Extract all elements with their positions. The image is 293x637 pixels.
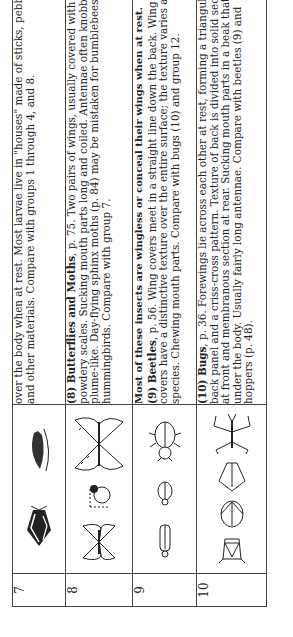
long-beetle-icon bbox=[155, 523, 175, 559]
illustration-cell bbox=[197, 405, 267, 574]
ground-beetle-icon bbox=[148, 419, 182, 463]
moth-icon bbox=[77, 520, 121, 564]
table-row: 9 Most of these insects are wingle bbox=[133, 0, 197, 607]
description-paragraph: (8) Butterflies and Moths, p. 75. Two pa… bbox=[66, 0, 112, 404]
illustration-cell bbox=[66, 405, 133, 574]
small-beetle-icon bbox=[154, 480, 176, 506]
caterpillar-icon bbox=[84, 481, 114, 513]
water-strider-icon bbox=[212, 413, 252, 457]
butterfly-icon bbox=[71, 414, 127, 474]
caddisfly-larva-icon bbox=[24, 428, 54, 474]
group-description: Most of these insects are wingless or co… bbox=[133, 0, 197, 405]
water-bug-icon bbox=[215, 460, 249, 496]
table-row: 8 (8) Butter bbox=[66, 0, 133, 607]
leaf-bug-icon bbox=[217, 499, 247, 533]
description-paragraph: (9) Beetles, p. 56. Wing covers meet in … bbox=[147, 0, 182, 404]
group-description: (8) Butterflies and Moths, p. 75. Two pa… bbox=[66, 0, 133, 405]
group-number: 8 bbox=[66, 574, 133, 607]
group-number: 7 bbox=[13, 574, 66, 607]
table-row: 10 (10) Bugs, p. 36. Forewi bbox=[197, 0, 267, 607]
group-description: over the body when at rest. Most larvae … bbox=[13, 0, 66, 405]
group-number: 9 bbox=[133, 574, 197, 607]
insect-key-table: 7 over the body when at rest. Most larva… bbox=[12, 0, 267, 607]
caddisfly-icon bbox=[21, 507, 57, 551]
illustration-cell bbox=[133, 405, 197, 574]
rotated-page: 7 over the body when at rest. Most larva… bbox=[12, 0, 266, 607]
description-paragraph: (10) Bugs, p. 36. Forewings lie across e… bbox=[197, 0, 255, 404]
illustration-cell bbox=[13, 405, 66, 574]
group-description: (10) Bugs, p. 36. Forewings lie across e… bbox=[197, 0, 267, 405]
table-row: 7 over the body when at rest. Most larva… bbox=[13, 0, 66, 607]
group-number: 10 bbox=[197, 574, 267, 607]
description-paragraph: over the body when at rest. Most larvae … bbox=[13, 0, 36, 404]
stink-bug-icon bbox=[217, 536, 247, 566]
section-heading: Most of these insects are wingless or co… bbox=[133, 0, 145, 404]
